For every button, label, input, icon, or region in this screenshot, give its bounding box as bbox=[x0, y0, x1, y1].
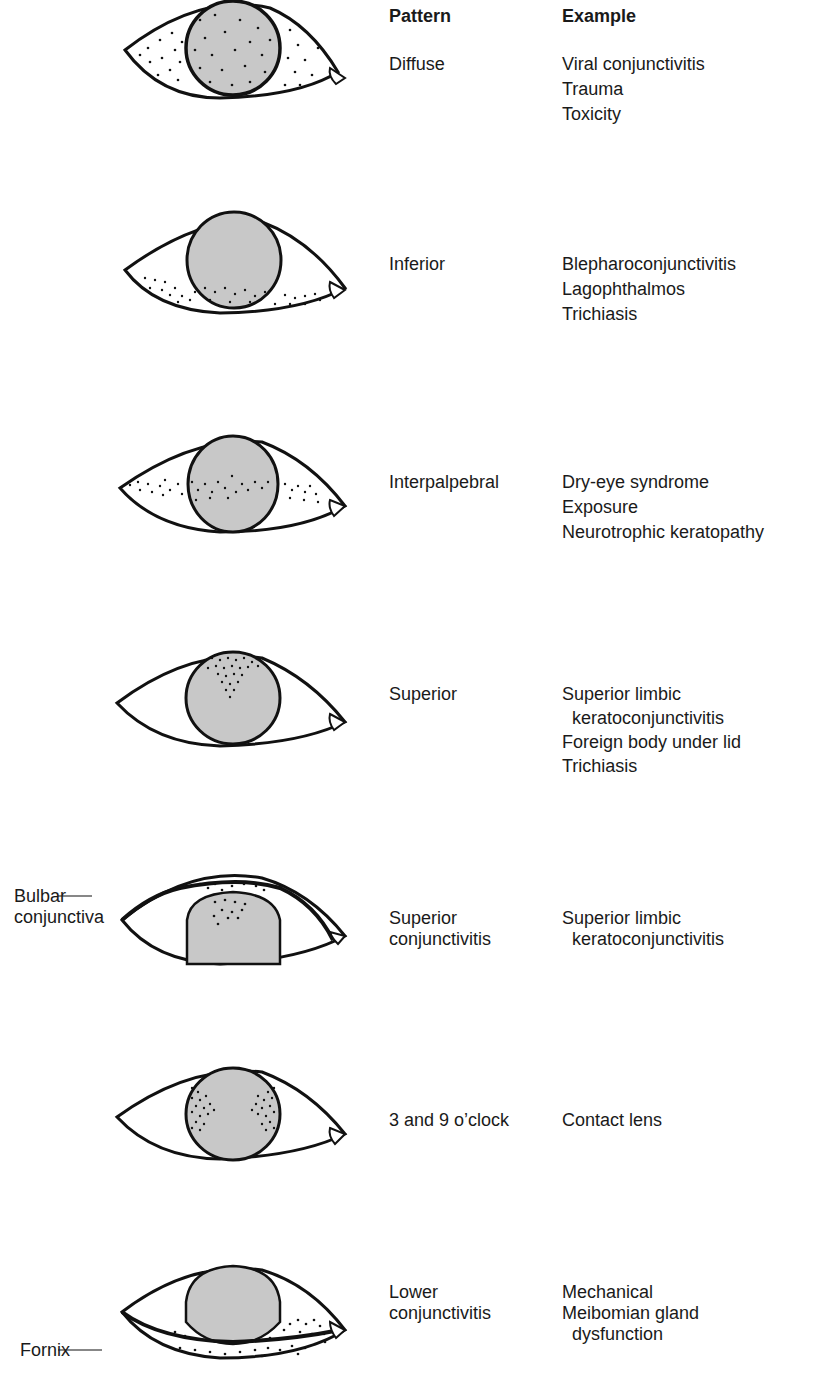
example-list: Viral conjunctivitis Trauma Toxicity bbox=[562, 52, 705, 127]
example-item: Viral conjunctivitis bbox=[562, 52, 705, 77]
eye-diagram-interpalpebral-icon bbox=[0, 420, 360, 540]
pattern-label: Diffuse bbox=[389, 52, 445, 77]
example-item: keratoconjunctivitis bbox=[562, 929, 724, 950]
pattern-label: Superior bbox=[389, 682, 457, 707]
eye-diagram-diffuse-icon bbox=[0, 0, 360, 110]
example-item: Toxicity bbox=[562, 102, 705, 127]
example-item: dysfunction bbox=[562, 1324, 699, 1345]
eye-diagram-three-nine-icon bbox=[0, 1060, 360, 1170]
example-item: Trichiasis bbox=[562, 302, 736, 327]
example-list: Dry-eye syndrome Exposure Neurotrophic k… bbox=[562, 470, 764, 545]
eye-diagram-inferior-icon bbox=[0, 200, 360, 320]
example-list: Blepharoconjunctivitis Lagophthalmos Tri… bbox=[562, 252, 736, 327]
row-diffuse: Diffuse Viral conjunctivitis Trauma Toxi… bbox=[0, 0, 819, 140]
row-superior-conjunctivitis: Bulbar conjunctiva Superior conjunctivit… bbox=[0, 860, 819, 980]
example-item: Contact lens bbox=[562, 1108, 662, 1133]
pattern-label: 3 and 9 o’clock bbox=[389, 1108, 509, 1133]
pattern-label: Inferior bbox=[389, 252, 445, 277]
example-item: Trauma bbox=[562, 77, 705, 102]
example-item: Trichiasis bbox=[562, 754, 741, 778]
pattern-label: Superior conjunctivitis bbox=[389, 908, 491, 950]
row-three-nine: 3 and 9 o’clock Contact lens bbox=[0, 1060, 819, 1180]
eye-diagram-superior-icon bbox=[0, 640, 360, 760]
example-list: Superior limbic keratoconjunctivitis bbox=[562, 908, 724, 950]
example-item: Lagophthalmos bbox=[562, 277, 736, 302]
example-list: Mechanical Meibomian gland dysfunction bbox=[562, 1282, 699, 1345]
example-item: Foreign body under lid bbox=[562, 730, 741, 754]
example-item: Exposure bbox=[562, 495, 764, 520]
bulbar-conjunctiva-label: Bulbar conjunctiva bbox=[14, 886, 104, 928]
example-item: Superior limbic bbox=[562, 908, 724, 929]
example-item: Mechanical bbox=[562, 1282, 699, 1303]
row-lower-conjunctivitis: Fornix Lower conjunctivitis Mechanical M… bbox=[0, 1262, 819, 1372]
example-item: keratoconjunctivitis bbox=[562, 706, 741, 730]
pattern-label: Interpalpebral bbox=[389, 470, 499, 495]
example-item: Dry-eye syndrome bbox=[562, 470, 764, 495]
example-list: Superior limbic keratoconjunctivitis For… bbox=[562, 682, 741, 778]
example-item: Blepharoconjunctivitis bbox=[562, 252, 736, 277]
example-item: Neurotrophic keratopathy bbox=[562, 520, 764, 545]
row-inferior: Inferior Blepharoconjunctivitis Lagophth… bbox=[0, 200, 819, 340]
example-item: Meibomian gland bbox=[562, 1303, 699, 1324]
example-item: Superior limbic bbox=[562, 682, 741, 706]
fornix-label: Fornix bbox=[20, 1340, 70, 1361]
row-superior: Superior Superior limbic keratoconjuncti… bbox=[0, 640, 819, 790]
example-list: Contact lens bbox=[562, 1108, 662, 1133]
pattern-label: Lower conjunctivitis bbox=[389, 1282, 491, 1324]
row-interpalpebral: Interpalpebral Dry-eye syndrome Exposure… bbox=[0, 420, 819, 560]
